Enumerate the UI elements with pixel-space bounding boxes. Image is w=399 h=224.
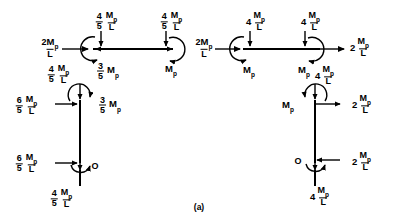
left-beam-node-b-vertical-label: 4 5 Mp L bbox=[161, 11, 184, 32]
right-beam-right-reaction-label: 2 Mp L bbox=[350, 37, 370, 58]
right-column-top-shear-label: 2 Mp L bbox=[352, 94, 372, 115]
right-beam-node-a-moment-label: Mp bbox=[243, 65, 255, 77]
right-beam-left-reaction-label: 2Mp L bbox=[195, 37, 214, 59]
left-beam-node-a-vertical-label: 4 5 Mp L bbox=[96, 11, 119, 32]
right-beam-node-a-vertical-label: 4 Mp L bbox=[246, 11, 266, 32]
free-body-diagram-figure: 2Mp L 4 5 Mp L 3 5 Mp 4 5 Mp L Mp bbox=[0, 0, 399, 224]
figure-caption: (a) bbox=[194, 202, 204, 212]
right-column-bottom-axial-label: 4 Mp L bbox=[310, 186, 330, 207]
right-beam-node-b-vertical-label: 4 Mp L bbox=[301, 11, 321, 32]
right-beam-node-b-moment-label: Mp bbox=[298, 65, 310, 77]
right-column-top-moment-label: Mp bbox=[282, 100, 294, 112]
left-column-bottom-shear-label: 6 5 Mp L bbox=[16, 153, 39, 174]
left-beam-node-b-moment-label: Mp bbox=[165, 64, 177, 76]
right-column-bottom-shear-label: 2 Mp L bbox=[352, 151, 372, 172]
left-column-top-shear-label: 6 5 Mp L bbox=[16, 95, 39, 116]
left-beam-left-reaction-label: 2Mp L bbox=[41, 37, 60, 59]
left-column-top-moment-label: 3 5 Mp bbox=[99, 96, 121, 115]
left-column-top-moment-arc bbox=[68, 84, 90, 101]
left-column-bottom-axial-label: 4 5 Mp L bbox=[51, 188, 74, 209]
right-column-top-axial-label: 4 Mp L bbox=[315, 65, 335, 86]
left-column-top-axial-label: 4 5 Mp L bbox=[48, 64, 71, 85]
left-column-bottom-moment-label: O bbox=[91, 162, 98, 171]
right-column-bottom-moment-label: O bbox=[294, 157, 301, 166]
left-beam-node-a-moment-label: 3 5 Mp bbox=[97, 62, 119, 81]
